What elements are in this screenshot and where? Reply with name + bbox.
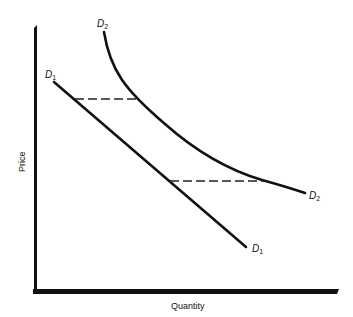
x-axis (33, 289, 339, 294)
label-d1-end: D1 (252, 243, 263, 255)
y-axis (34, 25, 37, 292)
x-axis-label: Quantity (171, 301, 205, 311)
curve-d2 (104, 32, 305, 193)
label-d2-top: D2 (97, 18, 108, 30)
demand-diagram: D1 D2 D2 D1 Quantity Price (0, 0, 353, 317)
y-axis-label: Price (17, 151, 27, 172)
label-d1-top: D1 (45, 69, 56, 81)
curve-d1 (54, 82, 246, 247)
label-d2-end: D2 (309, 190, 320, 202)
